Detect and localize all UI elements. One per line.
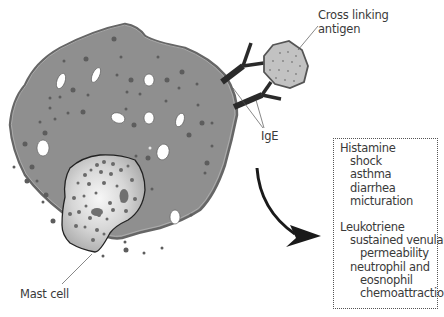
mediator-effects-box: Histamine shock asthma diarrhea micturat… (333, 138, 438, 309)
release-arrow (257, 168, 321, 247)
antigen-label-line2: antigen (318, 22, 389, 36)
antigen-label-line1: Cross linking (318, 8, 389, 22)
effect-item: asthma (340, 168, 437, 181)
mast-cell (10, 24, 237, 258)
effect-item: neutrophil and (340, 261, 437, 274)
cross-linking-antigen (264, 41, 308, 88)
effect-item: chemoattraction (340, 287, 437, 300)
effect-item: micturation (340, 195, 437, 208)
effect-item: diarrhea (340, 182, 437, 195)
effect-item: permeability (340, 247, 437, 260)
antigen-label: Cross linking antigen (318, 8, 389, 36)
mast-cell-label: Mast cell (20, 287, 69, 301)
nucleus (62, 155, 145, 252)
ige-label: IgE (261, 129, 278, 143)
